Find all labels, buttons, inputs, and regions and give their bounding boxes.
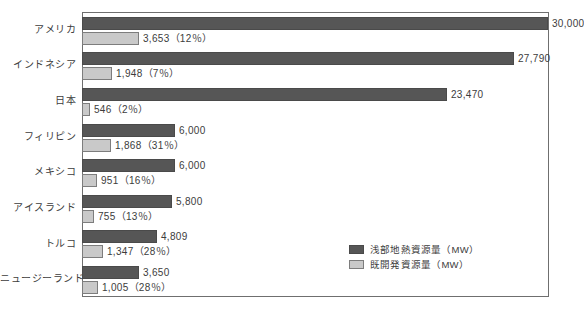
bar-primary	[82, 195, 172, 208]
chart-category-row: アイスランド5,800755（13％）	[0, 190, 558, 226]
bar-primary	[82, 88, 447, 101]
category-label: アメリカ	[0, 24, 76, 35]
bar-value-label: 546（2％）	[94, 103, 148, 116]
bar-value-label: 4,809	[161, 230, 188, 243]
bar-primary	[82, 52, 514, 65]
bar-value-label: 3,650	[143, 266, 170, 279]
bar-secondary	[82, 281, 98, 294]
legend-swatch-icon	[349, 260, 364, 269]
bar-primary	[82, 124, 175, 137]
bar-value-label: 951（16％）	[101, 174, 161, 187]
category-label: メキシコ	[0, 166, 76, 177]
bar-primary	[82, 159, 175, 172]
bar-value-label: 27,790	[518, 52, 550, 65]
chart-category-row: 日本23,470546（2％）	[0, 83, 558, 119]
bar-secondary	[82, 67, 112, 80]
legend-swatch-icon	[349, 245, 364, 254]
legend-label: 既開発資源量（MW）	[370, 258, 469, 272]
bar-primary	[82, 266, 139, 279]
chart-category-row: メキシコ6,000951（16％）	[0, 155, 558, 191]
bar-secondary	[82, 245, 103, 258]
bar-primary	[82, 17, 548, 30]
bar-secondary	[82, 32, 139, 45]
legend-entry: 浅部地熱資源量（MW）	[349, 242, 479, 257]
bar-value-label: 5,800	[176, 195, 203, 208]
bar-primary	[82, 230, 157, 243]
legend-label: 浅部地熱資源量（MW）	[370, 243, 479, 257]
bar-value-label: 1,005（28％）	[102, 281, 171, 294]
bar-secondary	[82, 210, 94, 223]
bar-value-label: 6,000	[179, 124, 206, 137]
bar-value-label: 3,653（12％）	[143, 32, 212, 45]
bar-value-label: 1,948（7％）	[116, 67, 179, 80]
legend-entry: 既開発資源量（MW）	[349, 257, 479, 272]
chart-category-row: フィリピン6,0001,868（31％）	[0, 119, 558, 155]
category-label: ニュージーランド	[0, 273, 76, 284]
category-label: アイスランド	[0, 202, 76, 213]
bar-secondary	[82, 174, 97, 187]
category-label: フィリピン	[0, 131, 76, 142]
category-label: トルコ	[0, 238, 76, 249]
chart-legend: 浅部地熱資源量（MW）既開発資源量（MW）	[349, 242, 479, 272]
category-label: 日本	[0, 95, 76, 106]
chart-category-row: アメリカ30,0003,653（12％）	[0, 12, 558, 48]
bar-secondary	[82, 103, 90, 116]
bar-value-label: 23,470	[451, 88, 483, 101]
bar-value-label: 30,000	[552, 17, 584, 30]
bar-value-label: 1,347（28％）	[107, 245, 176, 258]
bar-value-label: 755（13％）	[98, 210, 158, 223]
bar-secondary	[82, 139, 111, 152]
bar-value-label: 6,000	[179, 159, 206, 172]
bar-value-label: 1,868（31％）	[115, 139, 184, 152]
category-label: インドネシア	[0, 59, 76, 70]
chart-category-row: インドネシア27,7901,948（7％）	[0, 48, 558, 84]
